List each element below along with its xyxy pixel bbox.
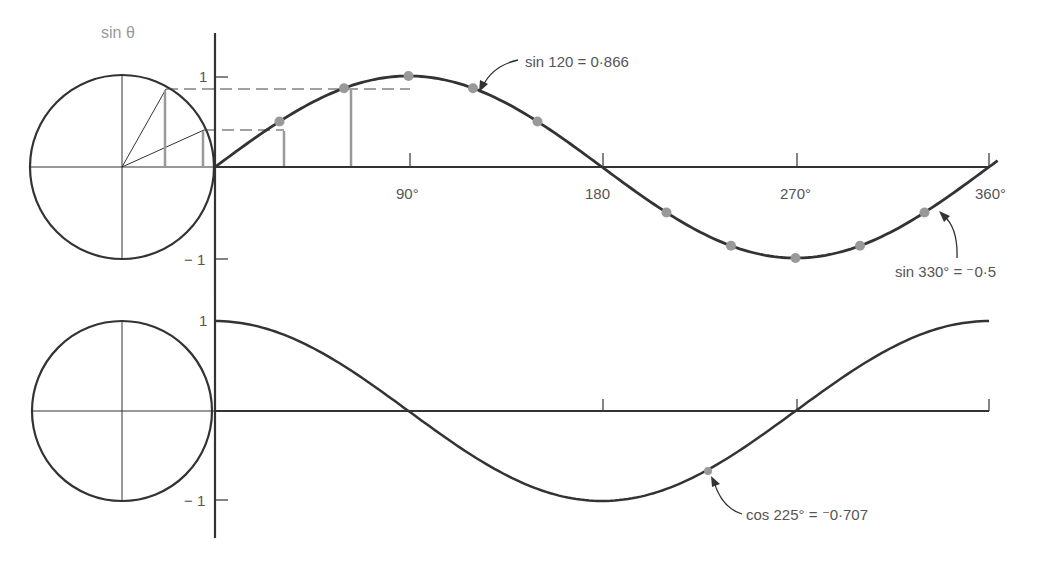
bottom-y-tick-1: 1 bbox=[199, 313, 207, 328]
sin120-arrowhead bbox=[479, 80, 488, 92]
annotation-sin120: sin 120 = 0·866 bbox=[525, 54, 629, 69]
sine-point bbox=[791, 253, 801, 263]
top-y-tick-1: 1 bbox=[199, 69, 207, 84]
x-tick-90: 90° bbox=[396, 186, 419, 201]
sin-unit-circle bbox=[30, 75, 214, 259]
cos-unit-circle bbox=[32, 321, 214, 501]
sine-point bbox=[339, 83, 349, 93]
trig-graphs bbox=[0, 0, 1058, 581]
bottom-y-tick-neg1: − 1 bbox=[184, 493, 205, 508]
sine-point bbox=[533, 117, 543, 127]
annotation-cos225: cos 225° = ⁻0·707 bbox=[746, 507, 868, 522]
sine-point bbox=[726, 241, 736, 251]
x-tick-270: 270° bbox=[780, 186, 811, 201]
cos225-arrow bbox=[714, 482, 742, 514]
sine-point bbox=[275, 117, 285, 127]
x-tick-180: 180 bbox=[585, 186, 610, 201]
cos225-arrowhead bbox=[711, 476, 720, 487]
sin-projections bbox=[165, 90, 351, 167]
sine-point bbox=[468, 83, 478, 93]
annotation-sin330: sin 330° = ⁻0·5 bbox=[895, 264, 996, 279]
sine-point bbox=[920, 208, 930, 218]
sin-theta-label: sin θ bbox=[101, 25, 135, 41]
sin-axes bbox=[215, 33, 989, 290]
cos225-point bbox=[704, 467, 712, 475]
x-tick-360: 360° bbox=[975, 186, 1006, 201]
sin330-arrow bbox=[944, 216, 957, 258]
sine-point bbox=[662, 208, 672, 218]
top-y-tick-neg1: − 1 bbox=[184, 252, 205, 267]
sine-point bbox=[855, 241, 865, 251]
sin120-arrow bbox=[483, 60, 518, 86]
sine-point bbox=[404, 71, 414, 81]
